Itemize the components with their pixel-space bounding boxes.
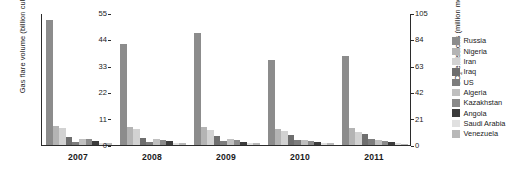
legend-label-nigeria: Nigeria — [464, 48, 487, 55]
y-tick-right-84: 84 — [415, 36, 445, 44]
bar-saudi-arabia-2010 — [321, 143, 328, 145]
legend-label-kazakhstan: Kazakhstan — [464, 99, 503, 106]
bar-angola-2010 — [314, 142, 321, 145]
bar-saudi-arabia-2011 — [395, 143, 402, 145]
bar-venezuela-2011 — [401, 144, 408, 145]
legend-swatch-us — [452, 79, 460, 87]
bar-us-2011 — [368, 139, 375, 145]
legend-label-venezuela: Venezuela — [464, 130, 499, 137]
tick-mark — [108, 119, 112, 120]
legend-item-angola[interactable]: Angola — [452, 108, 518, 118]
x-label-2011: 2011 — [337, 152, 411, 162]
bar-angola-2009 — [240, 142, 247, 145]
bar-saudi-arabia-2009 — [247, 143, 254, 145]
y-tick-left-44: 44 — [67, 36, 107, 44]
legend-label-iraq: Iraq — [464, 68, 477, 75]
bar-russia-2011 — [342, 56, 349, 145]
chart-figure: Gas flare volume (billion cubic meters) … — [0, 0, 521, 181]
y-tick-left-55: 55 — [67, 10, 107, 18]
bar-russia-2008 — [120, 44, 127, 145]
legend-label-angola: Angola — [464, 110, 487, 117]
legend-item-kazakhstan[interactable]: Kazakhstan — [452, 98, 518, 108]
bar-kazakhstan-2010 — [308, 141, 315, 145]
legend-swatch-iran — [452, 58, 460, 66]
bar-group-2011 — [342, 14, 408, 145]
legend-swatch-angola — [452, 109, 460, 117]
legend-item-us[interactable]: US — [452, 77, 518, 87]
y-tick-right-105: 105 — [415, 10, 445, 18]
legend-swatch-kazakhstan — [452, 99, 460, 107]
bar-kazakhstan-2008 — [160, 140, 167, 145]
legend-label-algeria: Algeria — [464, 89, 487, 96]
bar-russia-2009 — [194, 33, 201, 145]
x-label-2010: 2010 — [263, 152, 337, 162]
tick-mark — [108, 67, 112, 68]
tick-mark — [108, 14, 112, 15]
bar-us-2008 — [146, 142, 153, 145]
tick-mark — [411, 93, 415, 94]
bar-nigeria-2010 — [275, 129, 282, 145]
legend-label-russia: Russia — [464, 37, 487, 44]
legend-item-algeria[interactable]: Algeria — [452, 87, 518, 97]
chart-legend: RussiaNigeriaIranIraqUSAlgeriaKazakhstan… — [452, 36, 518, 139]
tick-mark — [411, 14, 415, 15]
tick-mark — [108, 93, 112, 94]
tick-mark — [411, 40, 415, 41]
bar-iraq-2010 — [288, 135, 295, 145]
bar-iraq-2011 — [362, 134, 369, 145]
bar-algeria-2011 — [375, 140, 382, 145]
bar-nigeria-2007 — [53, 126, 60, 145]
x-label-2009: 2009 — [189, 152, 263, 162]
bar-saudi-arabia-2008 — [173, 143, 180, 145]
bar-us-2009 — [220, 141, 227, 145]
y-tick-left-22: 22 — [67, 89, 107, 97]
tick-mark — [411, 146, 415, 147]
bar-venezuela-2008 — [179, 143, 186, 145]
bar-russia-2007 — [46, 20, 53, 145]
bar-group-2007 — [46, 14, 112, 145]
legend-item-russia[interactable]: Russia — [452, 36, 518, 46]
legend-swatch-nigeria — [452, 48, 460, 56]
legend-label-saudi-arabia: Saudi Arabia — [464, 120, 506, 127]
legend-item-nigeria[interactable]: Nigeria — [452, 46, 518, 56]
legend-swatch-russia — [452, 37, 460, 45]
y-tick-left-0: 0 — [67, 142, 107, 150]
tick-mark — [108, 146, 112, 147]
y-tick-left-33: 33 — [67, 63, 107, 71]
legend-item-venezuela[interactable]: Venezuela — [452, 129, 518, 139]
bar-russia-2010 — [268, 60, 275, 145]
legend-item-iran[interactable]: Iran — [452, 57, 518, 67]
bar-nigeria-2011 — [349, 128, 356, 145]
plot-area — [41, 14, 411, 146]
bar-group-2008 — [120, 14, 186, 145]
bar-nigeria-2008 — [127, 127, 134, 145]
tick-mark — [411, 119, 415, 120]
bar-iran-2011 — [355, 132, 362, 145]
x-label-2008: 2008 — [115, 152, 189, 162]
y-axis-left-title: Gas flare volume (billion cubic meters) — [18, 0, 27, 99]
y-tick-right-42: 42 — [415, 89, 445, 97]
y-tick-left-11: 11 — [67, 116, 107, 124]
tick-mark — [411, 67, 415, 68]
bar-iran-2009 — [207, 130, 214, 145]
bar-us-2010 — [294, 140, 301, 145]
bar-iran-2010 — [281, 131, 288, 145]
legend-item-iraq[interactable]: Iraq — [452, 67, 518, 77]
bar-angola-2011 — [388, 142, 395, 145]
bar-iran-2008 — [133, 129, 140, 145]
bar-iran-2007 — [59, 128, 66, 145]
legend-item-saudi-arabia[interactable]: Saudi Arabia — [452, 118, 518, 128]
y-tick-right-0: 0 — [415, 142, 445, 150]
legend-swatch-iraq — [452, 68, 460, 76]
tick-mark — [108, 40, 112, 41]
bar-kazakhstan-2011 — [382, 141, 389, 145]
legend-label-iran: Iran — [464, 58, 477, 65]
bar-algeria-2009 — [227, 139, 234, 145]
bar-group-2010 — [268, 14, 334, 145]
bar-algeria-2008 — [153, 139, 160, 145]
legend-swatch-algeria — [452, 89, 460, 97]
bar-venezuela-2009 — [253, 143, 260, 145]
bar-iraq-2009 — [214, 136, 221, 145]
bar-iraq-2008 — [140, 138, 147, 145]
legend-swatch-venezuela — [452, 130, 460, 138]
